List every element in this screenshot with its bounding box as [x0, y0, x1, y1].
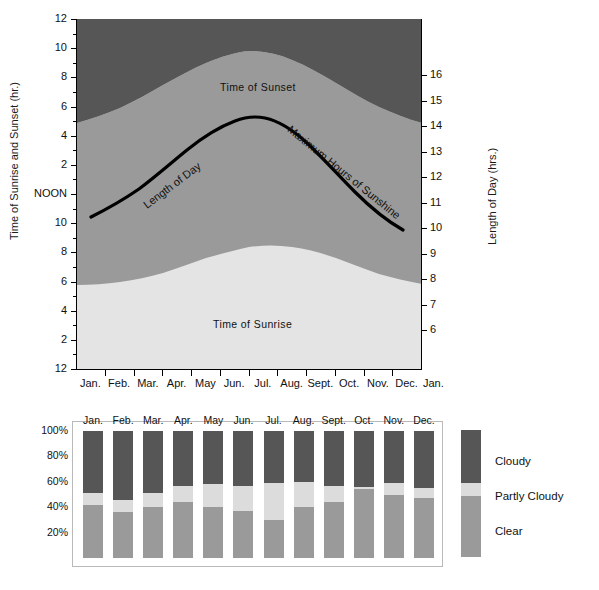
x-tick-mark [191, 370, 192, 376]
left-tick-label: 8 [0, 71, 67, 82]
bar-segment-cloudy [264, 431, 284, 483]
x-tick-label: Jan. [423, 378, 444, 389]
bar-segment-partly-cloudy [143, 493, 163, 507]
bar-segment-clear [324, 502, 344, 558]
bar-segment-partly-cloudy [414, 488, 434, 498]
right-tick-label: 6 [430, 324, 436, 335]
cloud-y-tick-label: 40% [47, 500, 68, 512]
sunrise-sunset-chart: Time of Sunrise and Sunset (hr.) Length … [0, 0, 599, 400]
legend-segment-clear [461, 496, 481, 557]
bar-segment-cloudy [113, 431, 133, 500]
left-tick-label: 12 [0, 363, 67, 374]
bar-segment-cloudy [324, 431, 344, 486]
left-minor-tick-mark [73, 209, 76, 210]
x-tick-mark [134, 370, 135, 376]
x-tick-mark [335, 370, 336, 376]
bar-month-label: Mar. [143, 414, 163, 426]
bar-segment-cloudy [203, 431, 223, 484]
sky-plot-area: Time of Sunset Time of Sunrise Length of… [76, 19, 422, 369]
right-tick-label: 12 [430, 171, 442, 182]
left-tick-mark [71, 165, 76, 166]
right-tick-mark [422, 126, 427, 127]
left-minor-tick-mark [73, 179, 76, 180]
right-tick-label: 16 [430, 69, 442, 80]
bar-segment-clear [264, 520, 284, 558]
legend-label-cloudy: Cloudy [495, 455, 531, 467]
stacked-bar[interactable]: Apr. [173, 431, 193, 558]
bar-segment-partly-cloudy [83, 493, 103, 504]
bar-segment-partly-cloudy [233, 486, 253, 511]
left-minor-tick-mark [73, 267, 76, 268]
stacked-bar[interactable]: Jul. [264, 431, 284, 558]
right-tick-mark [422, 75, 427, 76]
bar-segment-clear [233, 511, 253, 558]
x-tick-mark [162, 370, 163, 376]
bar-month-label: Nov. [383, 414, 404, 426]
left-tick-label: NOON [0, 188, 67, 199]
stacked-bar[interactable]: Nov. [384, 431, 404, 558]
right-tick-mark [422, 305, 427, 306]
legend-key-bar [461, 430, 481, 557]
right-axis-line [421, 19, 422, 370]
stacked-bar[interactable]: Dec. [414, 431, 434, 558]
sunset-annotation: Time of Sunset [220, 81, 296, 93]
cloud-y-tick-label: 80% [47, 449, 68, 461]
bar-segment-clear [294, 507, 314, 558]
legend-segment-cloudy [461, 430, 481, 483]
sunrise-annotation: Time of Sunrise [213, 318, 292, 330]
bar-segment-cloudy [233, 431, 253, 486]
bar-segment-clear [203, 507, 223, 558]
stacked-bar[interactable]: May [203, 431, 223, 558]
bar-segment-partly-cloudy [294, 482, 314, 507]
stacked-bar[interactable]: Aug. [294, 431, 314, 558]
left-tick-label: 2 [0, 159, 67, 170]
bar-segment-partly-cloudy [203, 484, 223, 507]
left-tick-mark [71, 282, 76, 283]
left-minor-tick-mark [73, 92, 76, 93]
right-tick-label: 8 [430, 273, 436, 284]
left-minor-tick-mark [73, 121, 76, 122]
bar-segment-cloudy [414, 431, 434, 488]
stacked-bar[interactable]: Feb. [113, 431, 133, 558]
stacked-bar[interactable]: Sept. [324, 431, 344, 558]
stacked-bar[interactable]: Mar. [143, 431, 163, 558]
left-tick-mark [71, 48, 76, 49]
left-minor-tick-mark [73, 34, 76, 35]
bar-segment-cloudy [354, 431, 374, 487]
x-tick-mark [306, 370, 307, 376]
bar-segment-clear [173, 502, 193, 558]
bar-segment-partly-cloudy [354, 487, 374, 490]
left-minor-tick-mark [73, 150, 76, 151]
bar-segment-partly-cloudy [324, 486, 344, 503]
x-tick-mark [277, 370, 278, 376]
left-axis-line [76, 19, 77, 370]
left-minor-tick-mark [73, 325, 76, 326]
left-minor-tick-mark [73, 296, 76, 297]
stacked-bar[interactable]: Jan. [83, 431, 103, 558]
right-tick-label: 11 [430, 197, 441, 208]
right-tick-label: 9 [430, 248, 436, 259]
x-tick-mark [364, 370, 365, 376]
left-minor-tick-mark [73, 354, 76, 355]
stacked-bar[interactable]: Oct. [354, 431, 374, 558]
left-tick-label: 10 [0, 42, 67, 53]
bar-segment-partly-cloudy [113, 500, 133, 513]
x-tick-mark [392, 370, 393, 376]
left-tick-label: 12 [0, 13, 67, 24]
left-tick-mark [71, 107, 76, 108]
bar-segment-cloudy [294, 431, 314, 482]
cloud-y-tick-label: 20% [47, 526, 68, 538]
stacked-bar[interactable]: Jun. [233, 431, 253, 558]
left-tick-label: 6 [0, 101, 67, 112]
bar-month-label: Dec. [413, 414, 435, 426]
sky-cover-chart: 100%80%60%40%20% Jan.Feb.Mar.Apr.MayJun.… [0, 400, 599, 590]
bar-segment-cloudy [173, 431, 193, 486]
bar-month-label: Jul. [265, 414, 281, 426]
legend-label-partly-cloudy: Partly Cloudy [495, 490, 563, 502]
left-tick-mark [71, 311, 76, 312]
bar-month-label: Aug. [293, 414, 315, 426]
bar-month-label: Feb. [113, 414, 134, 426]
bar-segment-clear [113, 512, 133, 558]
left-tick-label: 10 [0, 217, 67, 228]
cloud-plot-frame: Jan.Feb.Mar.Apr.MayJun.Jul.Aug.Sept.Oct.… [72, 421, 443, 567]
